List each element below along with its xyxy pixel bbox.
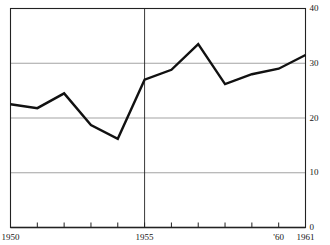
x-tick-label-1955: 1955 xyxy=(115,233,175,242)
y-tick-label-10: 10 xyxy=(310,168,319,177)
y-tick-label-30: 30 xyxy=(310,59,319,68)
x-tick-label-1961: 1961 xyxy=(276,233,330,242)
y-tick-label-40: 40 xyxy=(310,4,319,13)
series-polyline xyxy=(11,44,306,139)
x-tick-label-1950: 1950 xyxy=(0,233,41,242)
y-tick-label-20: 20 xyxy=(310,114,319,123)
line-chart: 010203040 19501955'601961 xyxy=(0,0,330,245)
chart-plot-area xyxy=(0,0,330,245)
gridlines xyxy=(11,63,306,173)
data-series-line xyxy=(11,44,306,139)
